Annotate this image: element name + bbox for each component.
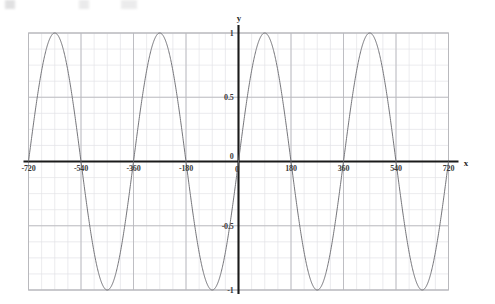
x-tick-label: 360 (338, 164, 350, 173)
origin-label: 0 (230, 152, 234, 161)
x-tick-label: -360 (127, 164, 141, 173)
y-tick-label: 1 (230, 29, 234, 38)
x-tick-label: 540 (390, 164, 402, 173)
x-tick-label: 180 (285, 164, 297, 173)
y-tick-label: 0.5 (224, 93, 234, 102)
plot-svg: -720-540-360-1800180360540720010.5-0.5-1… (0, 0, 495, 304)
sine-graph-figure: -720-540-360-1800180360540720010.5-0.5-1… (0, 0, 495, 304)
x-tick-label: -180 (179, 164, 193, 173)
y-tick-label: -1 (227, 286, 233, 295)
y-tick-label: -0.5 (222, 222, 234, 231)
x-tick-label: -720 (22, 164, 36, 173)
x-tick-label: 0 (235, 165, 239, 174)
y-axis-label: y (237, 13, 242, 23)
x-tick-label: 720 (443, 164, 455, 173)
x-axis-label: x (464, 158, 469, 168)
x-tick-label: -540 (74, 164, 88, 173)
